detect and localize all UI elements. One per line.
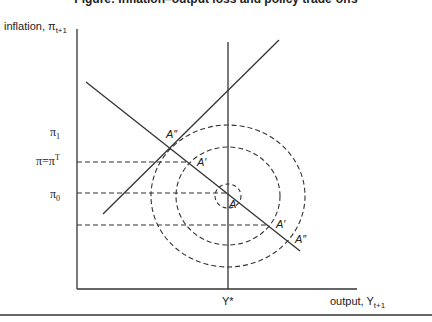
- x-axis-label: output, Yt+1: [330, 295, 386, 310]
- y-tick-pi0: π0: [50, 187, 60, 203]
- upward-sloping-curve: [103, 40, 279, 214]
- y-tick-pi-target: π=πT: [36, 153, 60, 168]
- point-a-prime-upper: A′: [196, 156, 207, 168]
- point-a-prime-lower: A′: [275, 218, 286, 230]
- y-axis-label: inflation, πt+1: [4, 20, 68, 35]
- point-a-double-prime-lower: A″: [294, 233, 307, 245]
- downward-sloping-curve: [86, 82, 300, 251]
- figure-title: Figure: Inflation–output loss and policy…: [74, 0, 358, 6]
- point-a-center: A: [228, 198, 236, 210]
- point-a-double-prime-upper: A″: [165, 128, 178, 140]
- x-tick-ystar: Y*: [222, 295, 234, 307]
- diagram-canvas: Figure: Inflation–output loss and policy…: [0, 0, 432, 322]
- y-tick-pi1: π1: [50, 125, 60, 141]
